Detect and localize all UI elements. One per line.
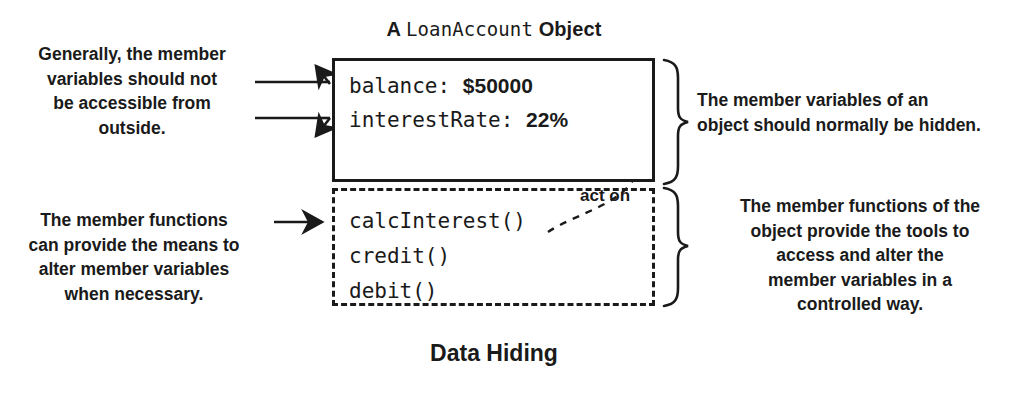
annotation-line: The member functions of the <box>700 194 1020 219</box>
member-function-row: debit() <box>349 281 438 302</box>
annotation-line: The member functions <box>8 208 260 233</box>
arrow-to-member-variables-bottom <box>255 118 330 136</box>
member-function-row: credit() <box>349 246 450 267</box>
annotation-line: outside. <box>12 116 252 141</box>
annotation-line: be accessible from <box>12 91 252 116</box>
member-variable-name: balance: <box>349 74 450 98</box>
member-function-row: calcInterest() <box>349 211 526 232</box>
object-title-suffix: Object <box>539 18 602 40</box>
member-variable-value: $50000 <box>463 74 533 97</box>
annotation-line: variables should not <box>12 67 252 92</box>
annotation-line: Generally, the member <box>12 42 252 67</box>
member-variable-value: 22% <box>526 108 568 131</box>
annotation-line: alter member variables <box>8 257 260 282</box>
object-title: A LoanAccount Object <box>332 18 656 41</box>
annotation-left-top: Generally, the member variables should n… <box>12 42 252 140</box>
member-variable-name: interestRate: <box>349 108 513 132</box>
data-hiding-diagram: A LoanAccount Object balance: $50000 int… <box>0 0 1033 396</box>
annotation-right-top: The member variables of an object should… <box>697 88 1027 137</box>
diagram-caption: Data Hiding <box>332 340 656 367</box>
brace-member-functions <box>664 188 688 306</box>
object-class-name: LoanAccount <box>406 18 533 40</box>
annotation-line: The member variables of an <box>697 88 1027 113</box>
annotation-line: when necessary. <box>8 282 260 307</box>
object-title-prefix: A <box>387 18 401 40</box>
annotation-line: member variables in a <box>700 268 1020 293</box>
annotation-line: access and alter the <box>700 243 1020 268</box>
annotation-right-bottom: The member functions of the object provi… <box>700 194 1020 317</box>
brace-member-variables <box>664 60 688 184</box>
annotation-left-bottom: The member functions can provide the mea… <box>8 208 260 306</box>
annotation-line: can provide the means to <box>8 233 260 258</box>
annotation-line: controlled way. <box>700 292 1020 317</box>
member-variables-box: balance: $50000 interestRate: 22% <box>332 58 655 182</box>
annotation-line: object provide the tools to <box>700 219 1020 244</box>
member-variable-row: interestRate: 22% <box>349 109 568 131</box>
member-variable-row: balance: $50000 <box>349 75 533 97</box>
arrow-to-member-variables-top <box>255 66 330 84</box>
act-on-label: act on <box>580 186 630 206</box>
annotation-line: object should normally be hidden. <box>697 113 1027 138</box>
